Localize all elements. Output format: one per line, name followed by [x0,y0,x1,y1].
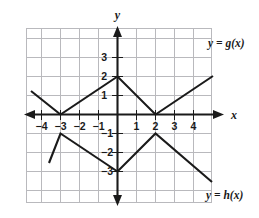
y-tick-label-3: 3 [101,51,107,63]
y-axis-label: y [113,8,121,22]
x-tick-label-neg2: −2 [74,120,86,132]
x-tick-label-neg3: −3 [55,120,67,132]
x-axis-label: x [230,108,237,122]
x-tick-label-4: 4 [191,120,197,132]
y-tick-label-neg3: −3 [101,165,113,177]
figure-background [0,0,259,218]
coordinate-plane: 3 2 1 −1 −2 −3 −4 −3 −2 −1 1 2 3 4 y x y… [0,0,259,218]
y-tick-label-1: 1 [101,89,107,101]
x-tick-label-neg4: −4 [36,120,48,132]
curve-label-h: y = h(x) [204,189,243,202]
y-tick-label-2: 2 [101,70,107,82]
y-tick-label-neg2: −2 [101,146,113,158]
x-tick-label-3: 3 [172,120,178,132]
x-tick-label-neg1: −1 [93,120,105,132]
x-tick-label-2: 2 [153,120,159,132]
curve-label-g: y = g(x) [206,37,245,50]
x-tick-label-1: 1 [134,120,140,132]
graph-figure: 3 2 1 −1 −2 −3 −4 −3 −2 −1 1 2 3 4 y x y… [0,0,259,218]
